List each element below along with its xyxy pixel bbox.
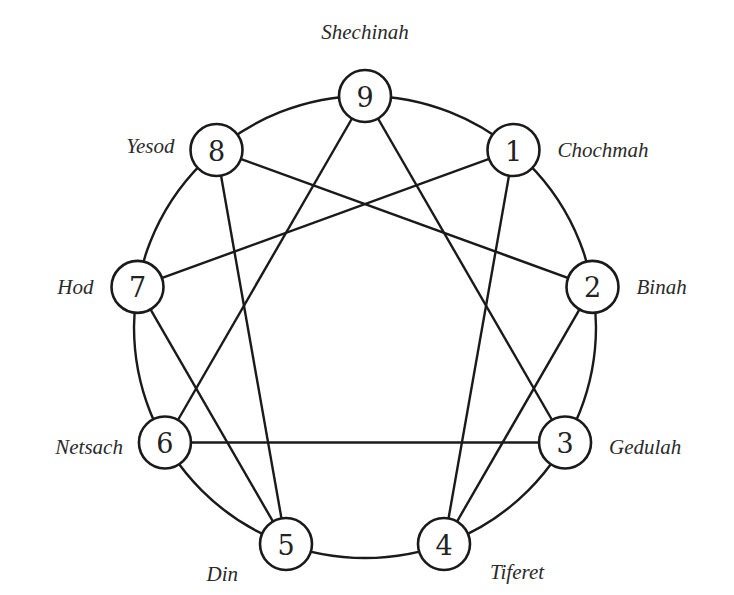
node-label: Binah: [636, 275, 686, 299]
node-label: Tiferet: [490, 560, 545, 584]
node-9: 9Shechinah: [321, 20, 408, 122]
node-label: Shechinah: [321, 20, 408, 44]
node-label: Gedulah: [609, 435, 681, 459]
node-label: Netsach: [54, 435, 123, 459]
node-8: 8Yesod: [126, 124, 242, 176]
node-number: 4: [435, 530, 452, 561]
node-label: Din: [205, 562, 238, 586]
node-label: Chochmah: [557, 138, 648, 162]
node-4: 4Tiferet: [418, 518, 545, 584]
node-5: 5Din: [205, 518, 312, 586]
nodes: 9Shechinah1Chochmah2Binah3Gedulah4Tifere…: [54, 20, 686, 586]
enneagram-diagram: 9Shechinah1Chochmah2Binah3Gedulah4Tifere…: [0, 0, 734, 595]
node-number: 7: [129, 272, 146, 303]
node-6: 6Netsach: [54, 417, 191, 469]
node-label: Yesod: [126, 134, 175, 158]
node-7: 7Hod: [56, 261, 163, 313]
node-2: 2Binah: [566, 261, 686, 313]
node-number: 5: [277, 530, 294, 561]
node-number: 2: [584, 272, 601, 303]
node-number: 3: [556, 428, 573, 459]
enneagram-svg: 9Shechinah1Chochmah2Binah3Gedulah4Tifere…: [0, 0, 734, 595]
node-3: 3Gedulah: [539, 417, 681, 469]
node-number: 1: [505, 136, 522, 167]
node-number: 6: [156, 428, 173, 459]
node-number: 9: [356, 82, 373, 113]
node-number: 8: [208, 136, 225, 167]
node-1: 1Chochmah: [487, 124, 648, 176]
node-label: Hod: [56, 275, 94, 299]
